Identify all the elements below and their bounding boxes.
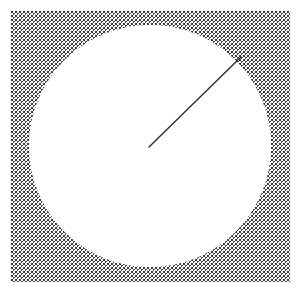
gauge-face (11, 11, 290, 282)
gauge-widget (0, 0, 302, 294)
stippled-frame (10, 10, 291, 283)
gauge-face-circle (29, 25, 271, 267)
